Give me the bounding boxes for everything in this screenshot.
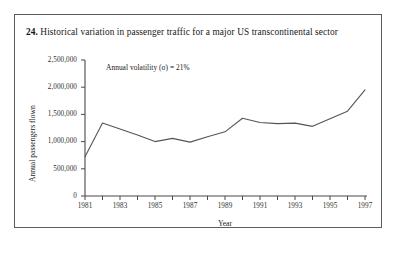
x-tick-label: 1991 [243, 202, 277, 210]
chart-series-line [85, 90, 365, 157]
y-tick-label: 0 [33, 192, 77, 200]
chart-plot-area: 0500,0001,000,0001,500,0002,000,0002,500… [0, 0, 398, 256]
x-tick-label: 1993 [278, 202, 312, 210]
y-tick-label: 500,000 [33, 165, 77, 173]
y-axis-title: Annual passengers flown [28, 105, 37, 182]
line-chart-svg [0, 0, 398, 256]
y-tick-label: 1,500,000 [33, 110, 77, 118]
x-axis-title: Year [195, 219, 255, 228]
y-tick-label: 2,500,000 [33, 56, 77, 64]
x-tick-label: 1985 [138, 202, 172, 210]
x-tick-label: 1995 [313, 202, 347, 210]
x-tick-label: 1983 [103, 202, 137, 210]
x-tick-label: 1987 [173, 202, 207, 210]
x-tick-label: 1981 [68, 202, 102, 210]
figure-root: 24. Historical variation in passenger tr… [0, 0, 398, 256]
volatility-annotation: Annual volatility (σ) = 21% [106, 63, 190, 72]
x-tick-label: 1989 [208, 202, 242, 210]
y-tick-label: 2,000,000 [33, 83, 77, 91]
y-tick-label: 1,000,000 [33, 137, 77, 145]
x-tick-label: 1997 [348, 202, 382, 210]
